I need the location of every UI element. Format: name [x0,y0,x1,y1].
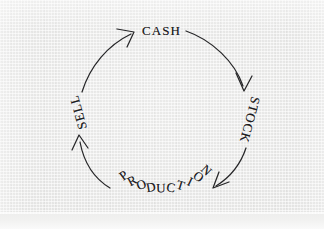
arc-letter: C [166,180,176,194]
arrow-production-to-sell [72,135,110,188]
arrow-stock-to-production [213,148,246,188]
cycle-node-cash[interactable]: CASH [142,24,181,37]
arrow-sell-to-cash [82,29,134,92]
arc-letter: D [145,180,157,194]
cycle-diagram: CASH STOCK PRODUCTION SELL [0,0,324,243]
arrow-cash-to-stock [186,31,252,91]
diagram-page: CASH STOCK PRODUCTION SELL [0,0,324,243]
arc-letter: U [156,181,166,194]
